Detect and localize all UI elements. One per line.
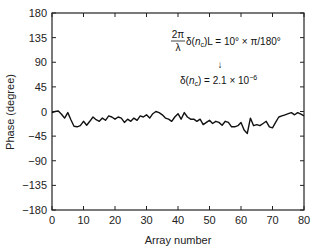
y-tick-label: −180 <box>22 204 47 216</box>
y-tick-label: −135 <box>22 179 47 191</box>
annotation-line-2: δ(nc) = 2.1 × 10−6 <box>180 74 257 87</box>
x-tick-label: 50 <box>203 214 215 226</box>
y-axis-title: Phase (degree) <box>4 74 16 150</box>
x-axis-title: Array number <box>145 234 212 246</box>
x-tick-label: 40 <box>172 214 184 226</box>
annotation-frac-denominator: λ <box>176 42 181 53</box>
y-tick-label: 180 <box>29 7 47 19</box>
y-tick-label: 90 <box>35 56 47 68</box>
x-tick-label: 0 <box>49 214 55 226</box>
x-tick-label: 80 <box>298 214 310 226</box>
y-tick-label: 45 <box>35 81 47 93</box>
x-tick-label: 70 <box>266 214 278 226</box>
y-tick-label: 135 <box>29 32 47 44</box>
phase-line <box>52 111 304 133</box>
y-tick-label: −90 <box>28 155 47 167</box>
annotation-frac-numerator: 2π <box>172 29 185 40</box>
y-tick-label: −45 <box>28 130 47 142</box>
y-tick-label: 0 <box>41 106 47 118</box>
x-tick-label: 10 <box>77 214 89 226</box>
x-tick-label: 60 <box>235 214 247 226</box>
down-arrow-icon: ↓ <box>218 59 223 70</box>
phase-chart: 18013590450−45−90−135−180 01020304050607… <box>0 0 315 248</box>
x-tick-label: 30 <box>140 214 152 226</box>
annotation-line-1: δ(nc)L = 10° × π/180° <box>186 36 281 48</box>
annotation: 2π λ δ(nc)L = 10° × π/180° ↓ δ(nc) = 2.1… <box>171 29 281 87</box>
x-tick-label: 20 <box>109 214 121 226</box>
